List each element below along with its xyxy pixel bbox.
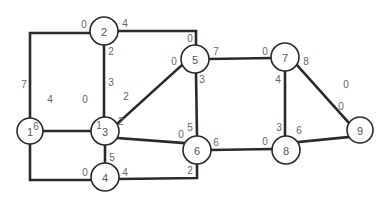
port-label: 4 (275, 74, 281, 85)
edge-7-9 (297, 65, 348, 122)
edge-1-2 (30, 33, 90, 118)
node-6: 6 (183, 136, 211, 164)
node-5: 5 (181, 45, 209, 73)
port-label: 7 (213, 46, 219, 57)
port-label: 5 (109, 152, 115, 163)
port-label: 0 (262, 46, 268, 57)
port-label: 4 (47, 94, 53, 105)
port-label: 0 (343, 79, 349, 90)
edge-5-6 (196, 73, 197, 136)
node-label: 3 (102, 126, 108, 138)
edge-8-9 (298, 137, 349, 142)
node-8: 8 (272, 136, 300, 164)
node-label: 8 (283, 145, 289, 157)
port-label: 8 (303, 56, 309, 67)
edge-3-6 (118, 138, 184, 143)
port-label: 4 (122, 18, 128, 29)
edge-5-7 (209, 58, 271, 59)
port-label: 4 (122, 167, 128, 178)
port-label: 2 (187, 165, 193, 176)
port-label: 3 (108, 77, 114, 88)
node-label: 5 (192, 54, 198, 66)
node-label: 1 (27, 126, 33, 138)
port-label: 6 (213, 137, 219, 148)
port-label: 0 (262, 136, 268, 147)
node-label: 9 (357, 125, 363, 137)
edge-2-5 (118, 31, 196, 45)
node-3: 3 (91, 117, 119, 145)
node-2: 2 (90, 17, 118, 45)
node-1: 1 (17, 118, 43, 144)
port-label: 0 (187, 33, 193, 44)
node-label: 7 (282, 52, 288, 64)
port-label: 6 (296, 125, 302, 136)
edge-6-8 (211, 149, 272, 150)
port-label: 2 (123, 91, 129, 102)
network-diagram: 123456789 704240322615040073506208400360 (0, 0, 389, 201)
port-label: 0 (82, 94, 88, 105)
port-label: 3 (276, 122, 282, 133)
port-label: 2 (118, 116, 124, 127)
port-label: 0 (171, 56, 177, 67)
node-9: 9 (347, 117, 373, 143)
edge-4-6 (119, 164, 197, 179)
port-label: 0 (338, 101, 344, 112)
port-label: 5 (187, 122, 193, 133)
port-label: 0 (82, 167, 88, 178)
port-label: 2 (108, 46, 114, 57)
port-label: 3 (199, 74, 205, 85)
node-4: 4 (91, 163, 119, 191)
port-label: 6 (33, 121, 39, 132)
port-label: 0 (81, 19, 87, 30)
node-label: 4 (102, 172, 108, 184)
node-label: 6 (194, 145, 200, 157)
node-7: 7 (271, 43, 299, 71)
node-label: 2 (101, 26, 107, 38)
port-label: 0 (178, 129, 184, 140)
port-label: 7 (21, 79, 27, 90)
port-label: 1 (96, 120, 102, 131)
